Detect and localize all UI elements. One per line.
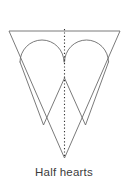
right-heart-arc-shape: [65, 40, 109, 62]
half-hearts-diagram: [0, 0, 128, 165]
figure-container: Half hearts: [0, 0, 128, 185]
figure-caption: Half hearts: [0, 165, 128, 179]
left-heart-arc-shape: [20, 40, 64, 62]
